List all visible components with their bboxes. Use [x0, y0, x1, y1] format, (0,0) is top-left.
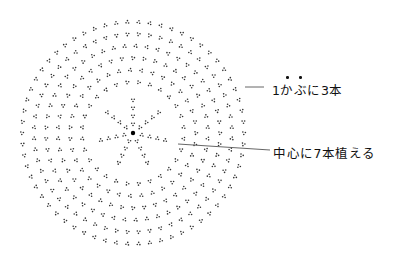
plant-cluster	[106, 189, 110, 193]
plant-cluster	[48, 103, 52, 107]
plant-cluster	[182, 186, 186, 190]
plant-cluster	[159, 36, 163, 40]
plant-cluster	[237, 98, 241, 102]
plant-cluster	[241, 120, 245, 124]
plant-cluster	[197, 57, 201, 61]
plant-cluster	[96, 79, 100, 83]
plant-cluster	[137, 32, 141, 36]
plant-cluster	[171, 82, 175, 86]
plant-cluster	[215, 153, 219, 157]
plant-cluster	[158, 88, 162, 92]
plant-cluster	[222, 194, 226, 198]
plant-cluster	[226, 159, 230, 163]
plant-cluster	[93, 222, 97, 226]
plant-cluster	[128, 68, 132, 72]
plant-cluster	[88, 193, 92, 197]
plant-cluster	[95, 167, 99, 171]
plant-cluster	[22, 153, 26, 157]
plant-cluster	[98, 198, 102, 202]
plant-cluster	[23, 109, 27, 113]
plant-cluster	[229, 114, 233, 118]
plant-cluster	[125, 20, 129, 24]
plant-cluster	[122, 133, 126, 137]
plant-cluster	[207, 173, 211, 177]
plant-cluster	[65, 187, 69, 191]
plant-cluster	[206, 125, 210, 129]
plant-cluster	[104, 88, 108, 92]
plant-cluster	[153, 203, 157, 207]
plant-cluster	[62, 158, 66, 162]
plant-cluster	[179, 44, 183, 48]
plant-cluster	[65, 57, 69, 61]
plant-cluster	[92, 235, 96, 239]
plant-cluster	[201, 159, 205, 163]
plant-cluster	[153, 59, 157, 63]
plant-cluster	[83, 44, 87, 48]
plant-cluster	[140, 133, 144, 137]
plant-cluster	[88, 104, 92, 108]
label-per-hill-prefix: 1	[272, 83, 280, 98]
plant-cluster	[217, 120, 221, 124]
plant-cluster	[158, 226, 162, 230]
label-per-hill-emphasized-ka: か	[280, 80, 294, 99]
plant-cluster	[21, 120, 25, 124]
plant-cluster	[57, 197, 61, 201]
plant-cluster	[103, 238, 107, 242]
plant-cluster	[145, 45, 149, 49]
plant-cluster	[161, 76, 165, 80]
plant-cluster	[138, 125, 142, 129]
plant-cluster	[185, 163, 189, 167]
plant-cluster	[205, 65, 209, 69]
plant-cluster	[222, 67, 226, 71]
plant-cluster	[32, 125, 36, 129]
plant-cluster	[148, 33, 152, 37]
plant-cluster	[101, 49, 105, 53]
plant-cluster	[196, 94, 200, 98]
plant-cluster	[205, 197, 209, 201]
plant-cluster	[61, 104, 65, 108]
plant-cluster	[167, 95, 171, 99]
plant-cluster	[131, 206, 135, 210]
plant-cluster	[58, 147, 62, 151]
plant-cluster	[122, 217, 126, 221]
plant-cluster	[138, 146, 142, 150]
plant-cluster	[151, 115, 155, 119]
plant-cluster	[137, 230, 141, 234]
plant-cluster	[190, 109, 194, 113]
plant-cluster	[58, 114, 62, 118]
plant-cluster	[230, 136, 234, 140]
plant-cluster	[104, 174, 108, 178]
plant-cluster	[204, 114, 208, 118]
plant-cluster	[136, 242, 140, 246]
plant-cluster	[34, 77, 38, 81]
plant-cluster	[73, 84, 77, 88]
plant-cluster	[91, 54, 95, 58]
plant-cluster	[72, 37, 76, 41]
plant-cluster	[207, 88, 211, 92]
plant-cluster	[148, 240, 152, 244]
plant-cluster	[82, 202, 86, 206]
plant-cluster	[190, 226, 194, 230]
plant-cluster	[82, 31, 86, 35]
plant-cluster	[69, 125, 73, 129]
plant-cluster	[101, 213, 105, 217]
plant-cluster	[190, 37, 194, 41]
plant-cluster	[55, 211, 59, 215]
plant-cluster	[128, 194, 132, 198]
plant-cluster	[74, 158, 78, 162]
plant-cluster	[193, 120, 197, 124]
plant-cluster	[99, 138, 103, 142]
plant-cluster	[139, 193, 143, 197]
plant-cluster	[142, 154, 146, 158]
plant-cluster	[134, 44, 138, 48]
plant-cluster	[87, 86, 91, 90]
plant-cluster	[107, 136, 111, 140]
plant-cluster	[193, 192, 197, 196]
plant-cluster	[72, 67, 76, 71]
plant-cluster	[25, 164, 29, 168]
plant-cluster	[36, 104, 40, 108]
plant-cluster	[197, 205, 201, 209]
label-per-hill-emphasized-bu: ぶ	[294, 80, 308, 99]
plant-cluster	[147, 135, 151, 139]
plant-cluster	[73, 212, 77, 216]
